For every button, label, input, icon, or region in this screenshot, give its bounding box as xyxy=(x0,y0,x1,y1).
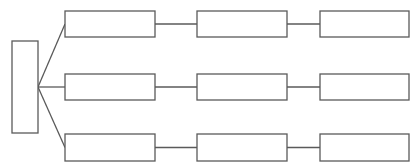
node-box-row-1-col-2 xyxy=(197,11,287,37)
root-box xyxy=(12,41,38,133)
connector-root-row-1 xyxy=(38,24,65,87)
node-box-row-1-col-3 xyxy=(320,11,409,37)
node-box-row-2-col-3 xyxy=(320,74,409,100)
node-box-row-2-col-2 xyxy=(197,74,287,100)
node-box-row-3-col-2 xyxy=(197,134,287,161)
node-box-row-3-col-1 xyxy=(65,134,155,161)
node-box-row-1-col-1 xyxy=(65,11,155,37)
connector-root-row-3 xyxy=(38,87,65,148)
node-box-row-2-col-1 xyxy=(65,74,155,100)
node-box-row-3-col-3 xyxy=(320,134,409,161)
tree-diagram xyxy=(0,0,415,165)
